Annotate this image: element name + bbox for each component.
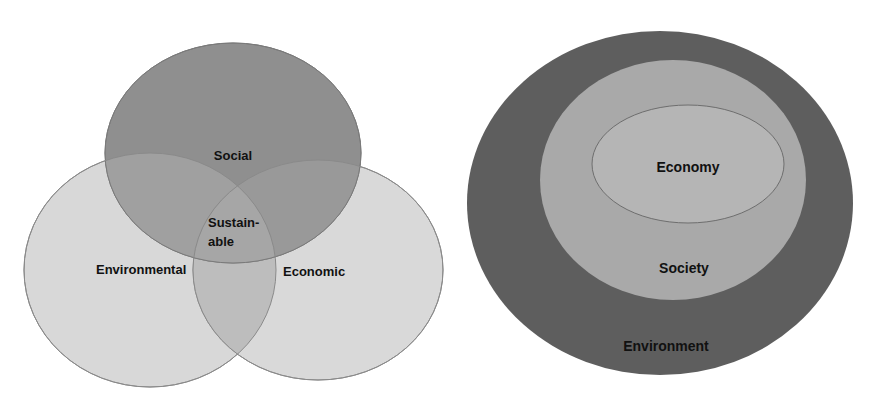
society-label: Society bbox=[659, 260, 709, 276]
sustainable-label-line2: able bbox=[208, 234, 234, 249]
diagram-canvas: Social Sustain- able Environmental Econo… bbox=[0, 0, 878, 404]
sustainable-label-line1: Sustain- bbox=[208, 215, 259, 230]
environment-label: Environment bbox=[623, 338, 709, 354]
economic-label: Economic bbox=[283, 264, 345, 279]
economy-label: Economy bbox=[656, 159, 719, 175]
nested-diagram: Economy Society Environment bbox=[467, 31, 853, 375]
venn-diagram: Social Sustain- able Environmental Econo… bbox=[24, 43, 443, 387]
social-label: Social bbox=[214, 148, 252, 163]
environmental-label: Environmental bbox=[96, 262, 186, 277]
